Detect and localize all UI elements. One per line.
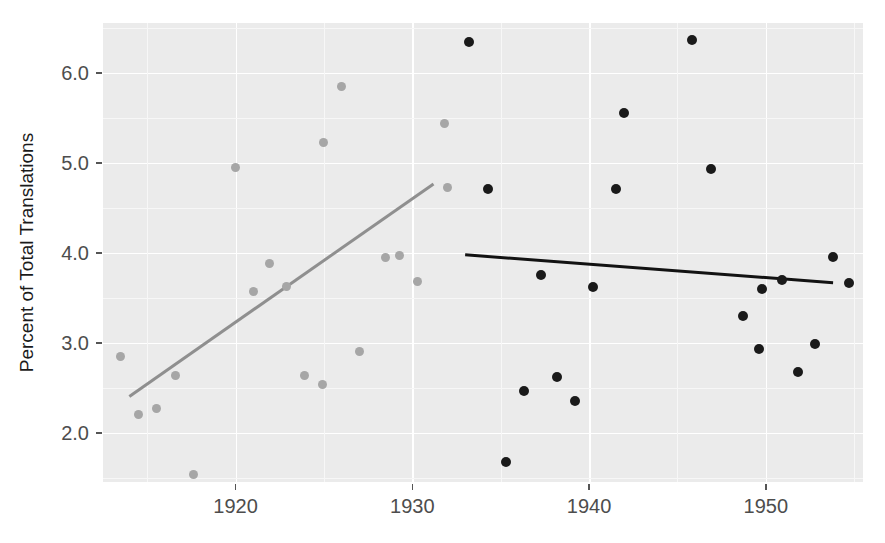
data-point [793,367,803,377]
y-tick-label-3.0: 3.0 [61,333,89,353]
gridline-minor-y-4.5 [103,208,863,209]
gridline-minor-y-6.5 [103,28,863,29]
data-point [588,282,598,292]
data-point [552,372,562,382]
data-point [381,253,390,262]
data-point [706,164,716,174]
gridline-x-1950 [766,23,768,482]
y-tick-mark [96,342,102,344]
x-tick-label-1930: 1930 [372,496,452,516]
data-point [189,470,198,479]
y-axis-label: Percent of Total Translations [14,23,40,482]
gridline-minor-y-1.5 [103,478,863,479]
data-point [810,339,820,349]
x-tick-mark [235,484,237,490]
data-point [152,404,161,413]
y-tick-label-2.0: 2.0 [61,423,89,443]
data-point [134,410,143,419]
x-tick-mark [765,484,767,490]
y-axis-label-wrapper: Percent of Total Translations [18,482,44,543]
data-point [619,108,629,118]
data-point [443,183,452,192]
gridline-y-5 [103,163,863,165]
data-point [483,184,493,194]
y-tick-mark [96,252,102,254]
data-point [777,275,787,285]
data-point [844,278,854,288]
y-tick-label-5.0: 5.0 [61,153,89,173]
data-point [738,311,748,321]
data-point [413,277,422,286]
y-tick-mark [96,162,102,164]
data-point [440,119,449,128]
data-point [249,287,258,296]
data-point [171,371,180,380]
y-tick-mark [96,432,102,434]
gridline-y-6 [103,73,863,75]
gridline-minor-x-1915 [147,23,148,482]
x-tick-mark [588,484,590,490]
data-point [536,270,546,280]
data-point [519,386,529,396]
data-point [337,82,346,91]
gridline-minor-x-1955 [854,23,855,482]
data-point [828,252,838,262]
y-tick-label-4.0: 4.0 [61,243,89,263]
data-point [318,380,327,389]
data-point [282,282,291,291]
gridline-x-1920 [236,23,238,482]
data-point [319,138,328,147]
data-point [355,347,364,356]
trend-line-early-period [128,182,433,397]
gridline-y-3 [103,343,863,345]
data-point [265,259,274,268]
gridline-minor-x-1945 [677,23,678,482]
chart-figure: Percent of Total Translations 2.03.04.05… [0,0,885,543]
data-point [757,284,767,294]
data-point [754,344,764,354]
gridline-minor-y-5.5 [103,118,863,119]
x-tick-label-1950: 1950 [726,496,806,516]
data-point [464,37,474,47]
data-point [231,163,240,172]
x-tick-mark [412,484,414,490]
data-point [395,251,404,260]
gridline-x-1940 [589,23,591,482]
x-tick-label-1940: 1940 [549,496,629,516]
data-point [611,184,621,194]
data-point [501,457,511,467]
y-tick-mark [96,72,102,74]
gridline-x-1930 [412,23,414,482]
data-point [116,352,125,361]
x-tick-label-1920: 1920 [196,496,276,516]
gridline-minor-y-2.5 [103,388,863,389]
gridline-minor-y-3.5 [103,298,863,299]
data-point [687,35,697,45]
data-point [300,371,309,380]
data-point [570,396,580,406]
plot-panel [103,23,863,482]
gridline-minor-x-1925 [324,23,325,482]
gridline-minor-x-1935 [501,23,502,482]
gridline-y-2 [103,433,863,435]
y-tick-label-6.0: 6.0 [61,63,89,83]
